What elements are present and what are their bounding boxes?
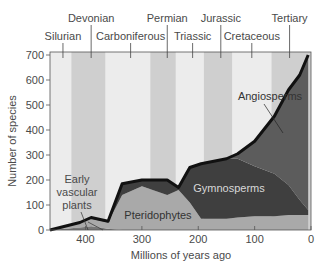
- species-diversity-chart: 01002003004005006007004003002001000 Silu…: [0, 0, 326, 273]
- x-tick-label: 200: [189, 233, 207, 245]
- x-tick-label: 400: [76, 233, 94, 245]
- geologic-period-labels: SilurianDevonianCarboniferousPermianTria…: [45, 12, 308, 58]
- period-label-devonian: Devonian: [68, 12, 114, 24]
- period-label-tertiary: Tertiary: [272, 12, 309, 24]
- period-label-triassic: Triassic: [174, 30, 212, 42]
- period-label-cretaceous: Cretaceous: [224, 30, 281, 42]
- x-tick-label: 100: [245, 233, 263, 245]
- label-pteridophytes: Pteridophytes: [124, 209, 192, 221]
- period-label-carboniferous: Carboniferous: [96, 30, 166, 42]
- y-tick-label: 300: [26, 149, 44, 161]
- period-label-permian: Permian: [147, 12, 188, 24]
- y-tick-label: 200: [26, 174, 44, 186]
- period-label-silurian: Silurian: [45, 30, 82, 42]
- y-tick-label: 600: [26, 74, 44, 86]
- x-tick-label: 300: [133, 233, 151, 245]
- period-label-jurassic: Jurassic: [201, 12, 242, 24]
- label-gymnosperms: Gymnosperms: [193, 182, 265, 194]
- label-early: Early: [64, 173, 90, 185]
- y-tick-label: 400: [26, 124, 44, 136]
- y-tick-label: 100: [26, 199, 44, 211]
- y-tick-label: 700: [26, 49, 44, 61]
- label-plants: plants: [62, 199, 92, 211]
- x-tick-label: 0: [308, 233, 314, 245]
- label-angiosperms: Angiosperms: [238, 90, 303, 102]
- y-axis-label: Number of species: [6, 95, 18, 187]
- x-axis-label: Millions of years ago: [131, 249, 231, 261]
- y-tick-label: 0: [38, 224, 44, 236]
- y-tick-label: 500: [26, 99, 44, 111]
- label-vascular: vascular: [57, 186, 98, 198]
